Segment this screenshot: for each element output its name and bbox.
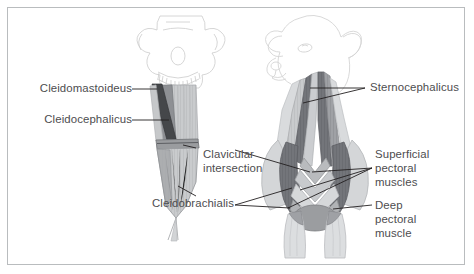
label-sternocephalicus: Sternocephalicus xyxy=(370,81,459,95)
left-figure-skull xyxy=(137,16,225,88)
label-superficial-pectoral-line2: pectoral xyxy=(375,162,416,176)
label-cleidocephalicus: Cleidocephalicus xyxy=(18,113,132,127)
label-superficial-pectoral-line3: muscles xyxy=(375,176,417,190)
label-superficial-pectoral-line1: Superficial xyxy=(375,148,429,162)
left-figure-neck-muscles xyxy=(150,84,199,241)
diagram-canvas: Cleidomastoideus Cleidocephalicus Clavic… xyxy=(0,0,474,274)
label-clavicular-intersection-line1: Clavicular xyxy=(203,148,254,162)
label-cleidobrachialis: Cleidobrachialis xyxy=(110,197,234,211)
label-deep-pectoral-line1: Deep xyxy=(375,199,403,213)
label-clavicular-intersection-line2: intersection xyxy=(203,162,262,176)
label-deep-pectoral-line3: muscle xyxy=(375,227,412,241)
label-deep-pectoral-line2: pectoral xyxy=(375,213,416,227)
label-cleidomastoideus: Cleidomastoideus xyxy=(18,82,132,96)
